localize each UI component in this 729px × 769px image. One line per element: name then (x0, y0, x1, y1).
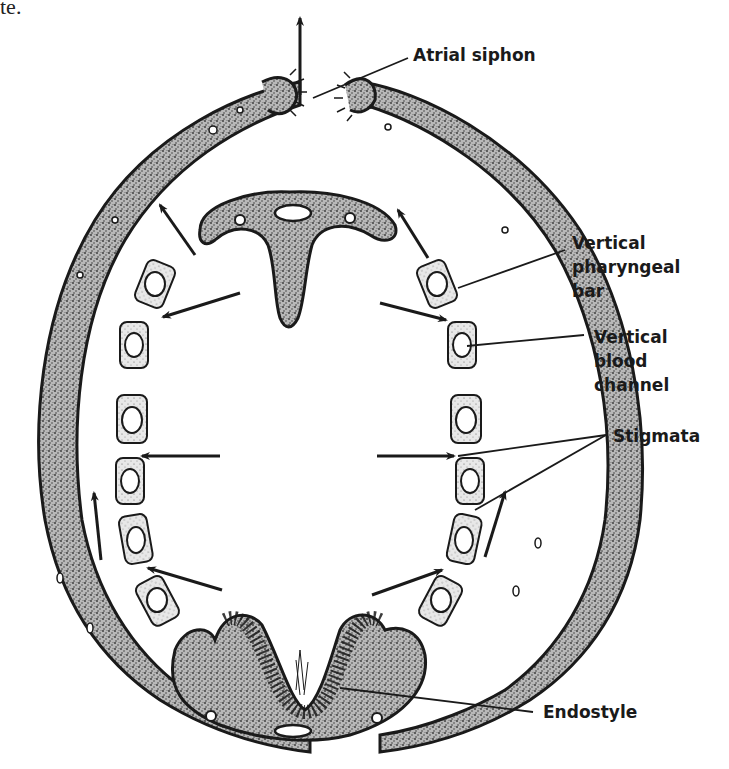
dorsal-lamina (200, 192, 396, 327)
label-pharyngeal-bar-line3: bar (572, 281, 605, 301)
label-endostyle: Endostyle (543, 702, 637, 722)
arrow-up-lower-left-icon (94, 493, 101, 560)
tunicate-pharynx-diagram: Atrial siphon Vertical pharyngeal bar Ve… (0, 0, 729, 769)
arrow-up-left-icon (160, 205, 195, 255)
label-blood-channel-line3: channel (594, 375, 669, 395)
label-pharyngeal-bar-line2: pharyngeal (572, 257, 680, 277)
arrow-up-right-icon (398, 210, 428, 258)
leader-lines (313, 58, 606, 712)
arrow-in-left-1-icon (163, 293, 240, 317)
label-pharyngeal-bar-line1: Vertical (572, 233, 645, 253)
label-atrial-siphon: Atrial siphon (413, 45, 536, 65)
endostyle-region (172, 615, 425, 740)
label-blood-channel-line2: blood (594, 351, 648, 371)
label-blood-channel-line1: Vertical (594, 327, 667, 347)
label-stigmata: Stigmata (613, 426, 700, 446)
